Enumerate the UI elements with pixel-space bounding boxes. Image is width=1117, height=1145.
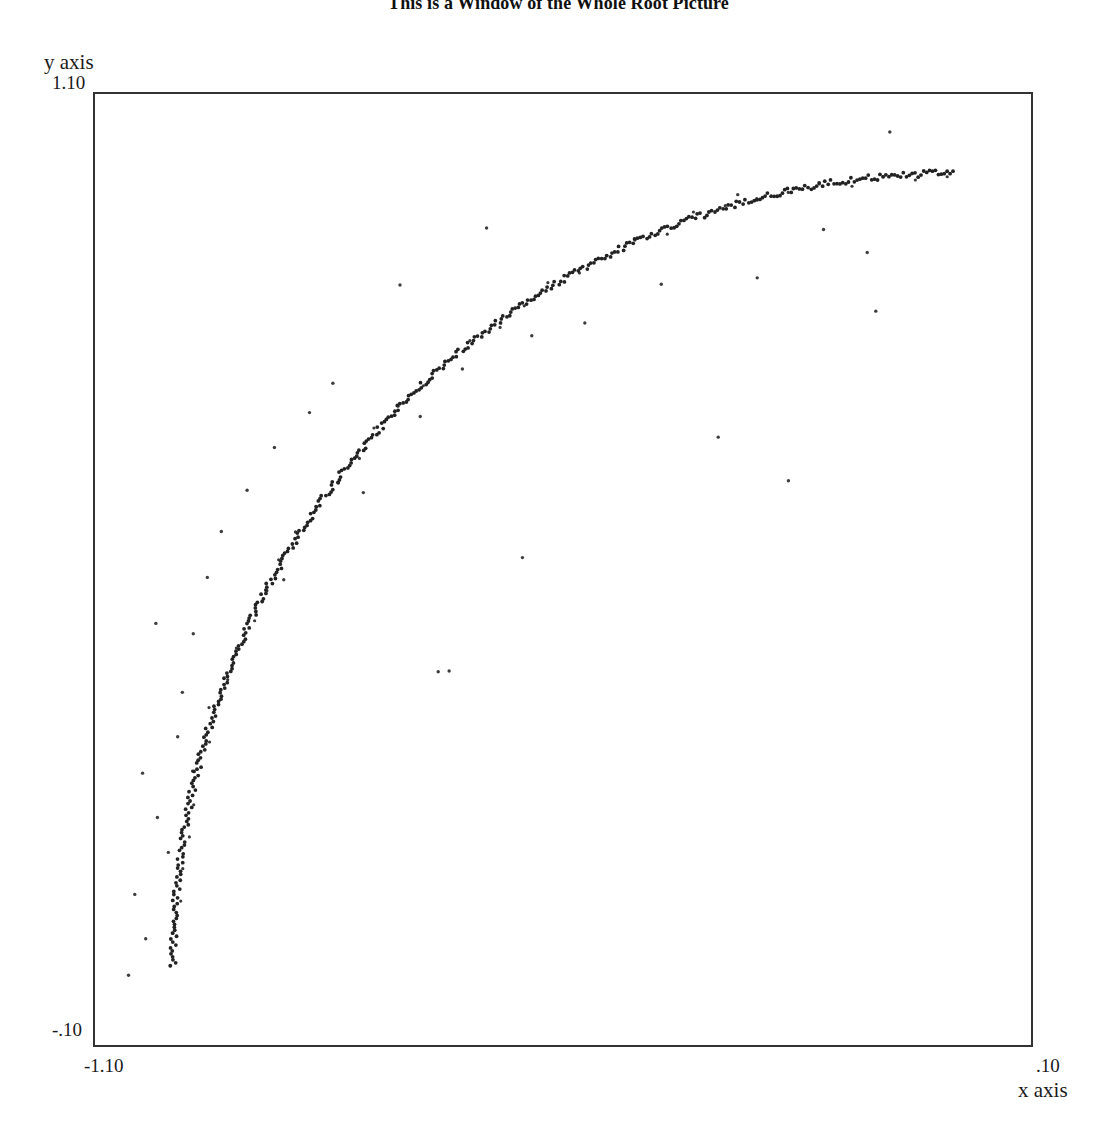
y-axis-max-tick-label: 1.10	[52, 72, 85, 94]
x-axis-max-tick-label: .10	[1036, 1055, 1060, 1077]
y-axis-min-tick-label: -.10	[52, 1019, 82, 1041]
scatter-plot-canvas	[95, 94, 1031, 1045]
x-axis-min-tick-label: -1.10	[84, 1055, 124, 1077]
page-title: This is a Window of the Whole Root Pictu…	[0, 0, 1117, 14]
plot-frame	[93, 92, 1033, 1047]
x-axis-title: x axis	[1018, 1078, 1068, 1103]
